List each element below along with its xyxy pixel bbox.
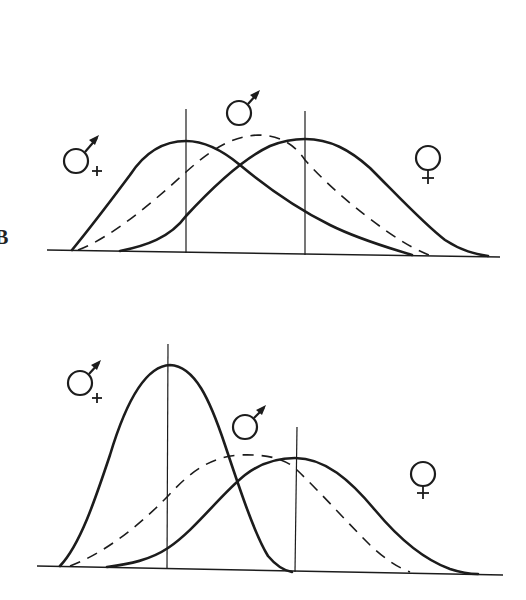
top-curve-male-plus [72, 141, 412, 255]
bottom-panel [37, 344, 503, 575]
top-male-plus-symbol [64, 135, 102, 176]
distribution-diagram [0, 0, 526, 600]
top-female-symbol [416, 146, 440, 184]
top-baseline [47, 250, 500, 257]
bottom-vertical-marker-left [167, 344, 168, 569]
bottom-female-symbol [411, 462, 435, 499]
bottom-vertical-marker-right [295, 427, 297, 572]
top-curve-female [120, 139, 488, 256]
top-male-symbol [227, 90, 260, 125]
bottom-male-symbol [233, 405, 266, 439]
bottom-curve-female [107, 458, 478, 574]
bottom-curve-male-dashed [70, 455, 410, 572]
bottom-male-plus-symbol [68, 360, 102, 403]
top-panel [47, 90, 500, 257]
